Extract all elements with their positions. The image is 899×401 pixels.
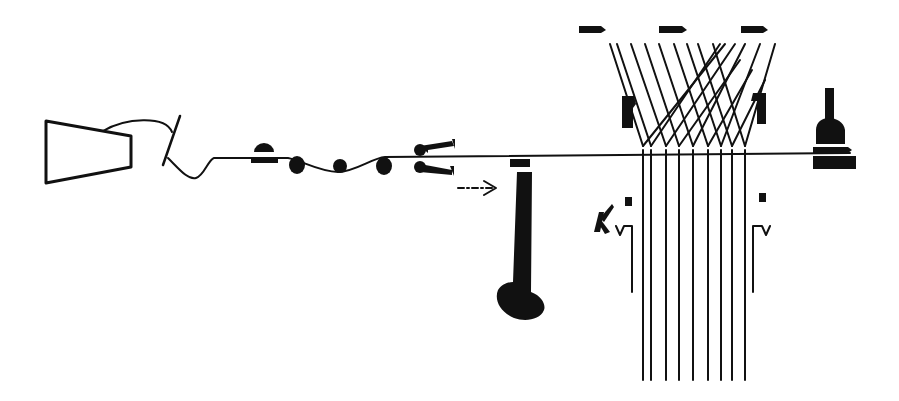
guide-bar-shogs — [579, 26, 768, 33]
needles — [643, 150, 745, 380]
tension-device — [251, 143, 278, 163]
diagram-canvas — [0, 0, 899, 401]
movement-arrow-icon — [458, 181, 496, 195]
swing-lever — [497, 159, 545, 320]
yarn-strand-package — [103, 120, 172, 132]
sinker-left — [616, 226, 632, 292]
yarn-package — [46, 121, 131, 183]
yarn-path-diagram — [0, 0, 899, 401]
sinker-right — [753, 226, 770, 292]
cutter-icon — [594, 204, 614, 234]
sinker-cap-right — [759, 193, 766, 202]
yarn-strand-loop — [168, 158, 250, 178]
thread-guide — [163, 116, 180, 165]
sinker-cap-left — [625, 197, 632, 206]
take-up-weight — [813, 88, 856, 169]
side-clamp-left — [622, 96, 636, 128]
yarn-lattice — [610, 44, 775, 146]
